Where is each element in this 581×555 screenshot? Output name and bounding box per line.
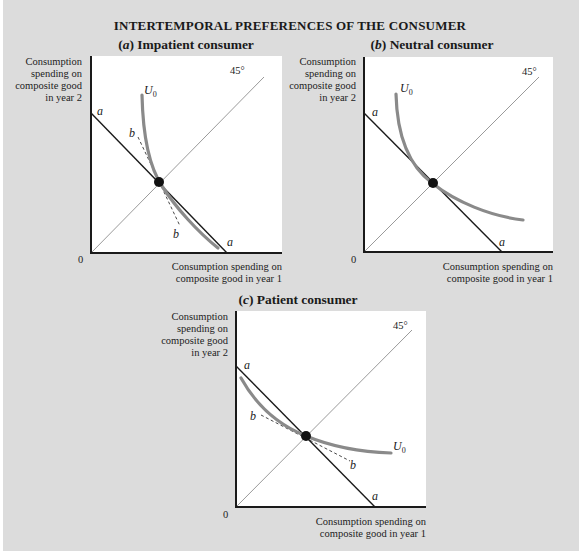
svg-text:in year 2: in year 2 — [319, 92, 356, 103]
panel-b-origin: 0 — [351, 254, 356, 265]
panel-c-budget-label-top: a — [244, 358, 250, 372]
panel-b-budget-label-top: a — [372, 105, 378, 119]
panel-c-x-axis-label: Consumption spending on composite good i… — [316, 516, 427, 539]
panel-b: (b) Neutral consumer Consumption spendin… — [289, 37, 554, 284]
svg-text:composite good in year 1: composite good in year 1 — [447, 273, 553, 284]
panel-b-budget-label-bottom: a — [499, 235, 505, 249]
svg-text:spending on: spending on — [177, 323, 229, 334]
svg-text:composite good in year 1: composite good in year 1 — [320, 528, 426, 539]
panel-a-title: (a) Impatient consumer — [118, 37, 254, 52]
svg-text:Consumption spending on: Consumption spending on — [316, 516, 427, 527]
panel-a-tangent-label-bottom: b — [173, 227, 179, 241]
panel-b-x-axis-label: Consumption spending on composite good i… — [443, 261, 554, 284]
svg-text:composite good in year 1: composite good in year 1 — [176, 273, 282, 284]
panel-c-title: (c) Patient consumer — [238, 292, 357, 307]
panel-a-budget-label-top: a — [97, 104, 103, 118]
panel-b-tangency-point — [428, 178, 438, 188]
svg-text:Consumption spending on: Consumption spending on — [172, 261, 283, 272]
panel-b-45-label: 45° — [522, 66, 537, 77]
panel-b-title: (b) Neutral consumer — [371, 37, 494, 52]
svg-text:in year 2: in year 2 — [45, 92, 82, 103]
panel-b-plot-area — [364, 57, 553, 252]
panel-c-tangent-label-bottom: b — [350, 458, 356, 472]
panel-a-origin: 0 — [78, 254, 83, 265]
svg-text:in year 2: in year 2 — [191, 347, 228, 358]
panel-a-budget-label-bottom: a — [227, 235, 233, 249]
svg-text:Consumption: Consumption — [299, 56, 356, 67]
panel-a: (a) Impatient consumer Consumption spend… — [15, 37, 283, 284]
svg-text:Consumption: Consumption — [25, 56, 82, 67]
svg-text:composite good: composite good — [289, 80, 357, 91]
svg-text:composite good: composite good — [161, 335, 229, 346]
panel-c-45-label: 45° — [393, 320, 408, 331]
panel-c-origin: 0 — [223, 509, 228, 520]
panel-c: (c) Patient consumer Consumption spendin… — [161, 292, 427, 539]
panel-c-tangent-label-top: b — [250, 409, 256, 423]
panel-c-y-axis-label: Consumption spending on composite good i… — [161, 311, 229, 358]
panel-a-x-axis-label: Consumption spending on composite good i… — [172, 261, 283, 284]
svg-text:Consumption: Consumption — [171, 311, 228, 322]
diagram-svg: INTERTEMPORAL PREFERENCES OF THE CONSUME… — [0, 0, 581, 555]
svg-text:Consumption spending on: Consumption spending on — [443, 261, 554, 272]
panel-a-tangency-point — [154, 177, 164, 187]
svg-text:spending on: spending on — [31, 68, 83, 79]
svg-text:composite good: composite good — [15, 80, 83, 91]
figure-title: INTERTEMPORAL PREFERENCES OF THE CONSUME… — [114, 18, 467, 33]
svg-text:spending on: spending on — [305, 68, 357, 79]
panel-a-tangent-label-top: b — [129, 126, 135, 140]
panel-c-tangency-point — [301, 431, 311, 441]
panel-a-y-axis-label: Consumption spending on composite good i… — [15, 56, 83, 103]
panel-b-y-axis-label: Consumption spending on composite good i… — [289, 56, 357, 103]
panel-c-budget-label-bottom: a — [372, 489, 378, 503]
panel-a-45-label: 45° — [230, 65, 245, 76]
